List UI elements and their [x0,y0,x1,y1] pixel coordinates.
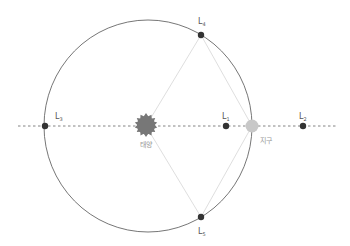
l3-label: L3 [55,112,63,122]
l4-point [198,32,204,38]
l5-label: L5 [198,227,206,237]
sun-icon [135,113,157,137]
l2-label: L2 [299,112,307,122]
earth-label: 지구 [260,136,273,145]
l5-point [198,214,204,220]
l1-label: L1 [222,112,230,122]
lagrange-diagram: 태양 지구 L1 L2 L3 L4 L5 [0,0,350,246]
sun-label: 태양 [140,141,153,149]
l2-point [300,123,306,129]
l1-point [223,123,229,129]
l4-label: L4 [198,17,206,27]
l3-point [42,123,48,129]
earth-icon [246,120,259,133]
